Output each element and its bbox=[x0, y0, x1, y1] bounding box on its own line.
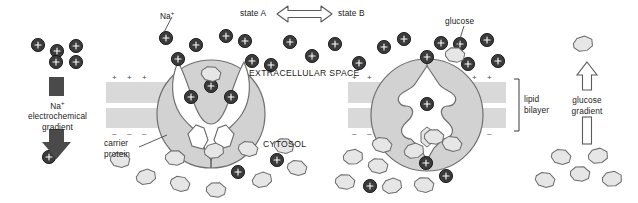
lipid-bilayer-bracket bbox=[514, 79, 519, 131]
svg-text:–: – bbox=[352, 129, 357, 138]
svg-text:–: – bbox=[367, 129, 372, 138]
sodium-gradient-label: Na+ electrochemical gradient bbox=[10, 98, 105, 132]
svg-text:+: + bbox=[142, 73, 147, 82]
svg-text:–: – bbox=[112, 129, 117, 138]
bound-sodium-ion-b1 bbox=[420, 97, 433, 110]
cytosol-label: CYTOSOL bbox=[263, 139, 306, 150]
carrier-protein-label: carrier protein bbox=[104, 138, 130, 159]
svg-text:+: + bbox=[487, 73, 492, 82]
svg-text:–: – bbox=[487, 129, 492, 138]
svg-text:+: + bbox=[127, 73, 132, 82]
sodium-ion-label: Na+ bbox=[160, 8, 174, 21]
state-a-label: state A bbox=[240, 8, 266, 19]
glucose-gradient-label: glucose gradient bbox=[547, 95, 627, 116]
diagram-canvas: +++ ++ ++ +++ + ––– –– –– ––– – bbox=[0, 0, 638, 203]
extracellular-space-label: EXTRACELLULAR SPACE bbox=[249, 68, 360, 79]
svg-text:+: + bbox=[472, 73, 477, 82]
bound-sodium-ion-a2 bbox=[224, 90, 237, 103]
lipid-bilayer-label: lipid bilayer bbox=[524, 94, 549, 115]
state-transition-arrow bbox=[277, 6, 332, 22]
svg-text:–: – bbox=[127, 129, 132, 138]
carrier-protein-state-b bbox=[371, 59, 483, 171]
svg-text:–: – bbox=[142, 129, 147, 138]
glucose-label: glucose bbox=[445, 16, 474, 27]
bound-sodium-ion-a1 bbox=[184, 90, 197, 103]
state-b-label: state B bbox=[338, 8, 365, 19]
svg-text:+: + bbox=[112, 73, 117, 82]
svg-text:+: + bbox=[367, 73, 372, 82]
